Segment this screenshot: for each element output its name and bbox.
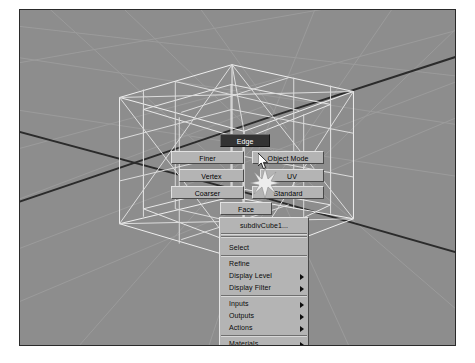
marking-menu-item-edge[interactable]: Edge	[220, 134, 270, 147]
submenu-arrow-icon	[300, 314, 304, 320]
context-menu-item-select[interactable]: Select	[220, 242, 308, 254]
submenu-arrow-icon	[300, 326, 304, 332]
context-menu-item-label: Display Filter	[229, 284, 271, 291]
context-menu-item-label: Actions	[229, 324, 253, 331]
context-menu-item-label: Outputs	[229, 312, 254, 319]
context-menu-item-actions[interactable]: Actions	[220, 322, 308, 334]
menu-separator	[221, 233, 307, 235]
context-menu-item-outputs[interactable]: Outputs	[220, 310, 308, 322]
context-menu-title: subdivCube1...	[220, 219, 308, 232]
menu-separator	[221, 236, 307, 238]
submenu-arrow-icon	[300, 342, 304, 346]
marking-menu-item-vertex[interactable]: Vertex	[179, 169, 244, 182]
marking-menu-item-coarser[interactable]: Coarser	[171, 186, 244, 199]
context-menu-item-inputs[interactable]: Inputs	[220, 298, 308, 310]
context-menu-item-materials[interactable]: Materials	[220, 338, 308, 346]
context-menu-item-display-level[interactable]: Display Level	[220, 270, 308, 282]
context-menu-item-label: Display Level	[229, 272, 272, 279]
context-menu-item-label: Materials	[229, 340, 258, 346]
submenu-arrow-icon	[300, 274, 304, 280]
marking-menu-item-finer[interactable]: Finer	[171, 151, 244, 164]
context-menu-item-refine[interactable]: Refine	[220, 258, 308, 270]
menu-separator	[221, 255, 307, 257]
maya-3d-viewport[interactable]: Edge Finer Object Mode Vertex UV Coarser…	[19, 9, 456, 346]
submenu-arrow-icon	[300, 302, 304, 308]
submenu-arrow-icon	[300, 286, 304, 292]
menu-separator	[221, 335, 307, 337]
context-menu-item-display-filter[interactable]: Display Filter	[220, 282, 308, 294]
mouse-pointer-icon	[258, 153, 270, 170]
context-menu-item-label: Inputs	[229, 300, 249, 307]
marking-menu-item-face[interactable]: Face	[220, 202, 272, 215]
marking-menu-hub-icon	[250, 168, 280, 198]
menu-separator	[221, 295, 307, 297]
subdiv-context-menu[interactable]: subdivCube1... Select Refine Display Lev…	[219, 217, 309, 346]
